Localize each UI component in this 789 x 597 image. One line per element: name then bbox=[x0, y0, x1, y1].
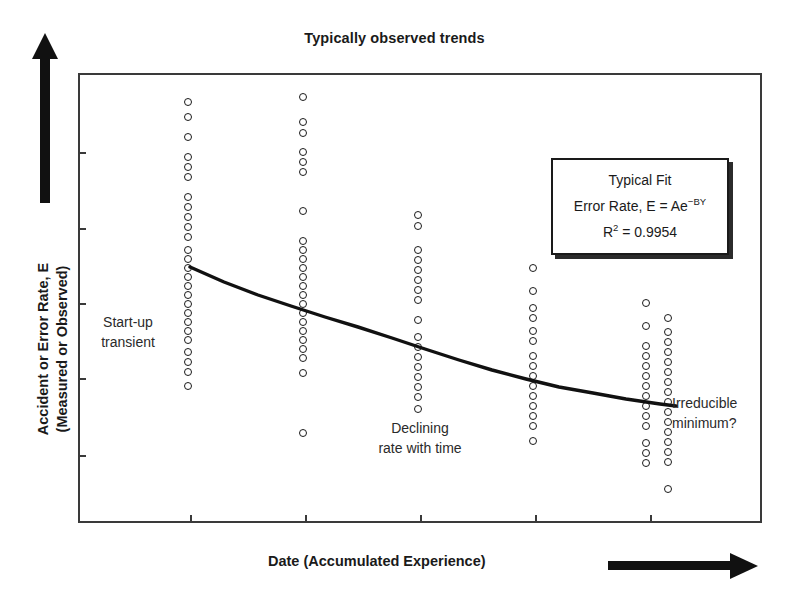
legend-r-exponent: 2 bbox=[613, 222, 618, 233]
annotation-irreducible-line1: Irreducible bbox=[672, 393, 784, 413]
y-axis-label: Accident or Error Rate, E (Measured or O… bbox=[34, 184, 72, 514]
legend-equation-exponent: −BY bbox=[688, 196, 706, 207]
y-axis-label-line1: Accident or Error Rate, E bbox=[34, 184, 53, 514]
annotation-startup-transient: Start-up transient bbox=[86, 312, 170, 352]
y-axis-arrow-head-icon bbox=[32, 33, 58, 59]
legend-r-value: = 0.9954 bbox=[622, 223, 677, 239]
legend-equation-text: Error Rate, E = Ae bbox=[574, 198, 688, 214]
x-axis-arrow-shaft bbox=[608, 561, 736, 570]
annotation-declining-line2: rate with time bbox=[340, 438, 500, 458]
legend-heading: Typical Fit bbox=[559, 169, 721, 191]
y-axis-arrow-shaft bbox=[40, 55, 50, 203]
annotation-declining-rate: Declining rate with time bbox=[340, 418, 500, 458]
legend-equation: Error Rate, E = Ae−BY bbox=[559, 191, 721, 217]
legend-r-symbol: R bbox=[603, 223, 613, 239]
annotation-declining-line1: Declining bbox=[340, 418, 500, 438]
y-axis-label-line2: (Measured or Observed) bbox=[53, 184, 72, 514]
annotation-startup-line2: transient bbox=[86, 332, 170, 352]
annotation-startup-line1: Start-up bbox=[86, 312, 170, 332]
x-axis-label: Date (Accumulated Experience) bbox=[268, 553, 486, 569]
annotation-irreducible-line2: minimum? bbox=[672, 413, 784, 433]
chart-page: Typically observed trends Accident or Er… bbox=[0, 0, 789, 597]
typical-fit-legend-box: Typical Fit Error Rate, E = Ae−BY R2 = 0… bbox=[551, 158, 729, 255]
annotation-irreducible-minimum: Irreducible minimum? bbox=[672, 393, 784, 433]
x-axis-arrow-head-icon bbox=[730, 553, 758, 579]
page-title: Typically observed trends bbox=[0, 30, 789, 46]
legend-r-squared: R2 = 0.9954 bbox=[559, 217, 721, 243]
